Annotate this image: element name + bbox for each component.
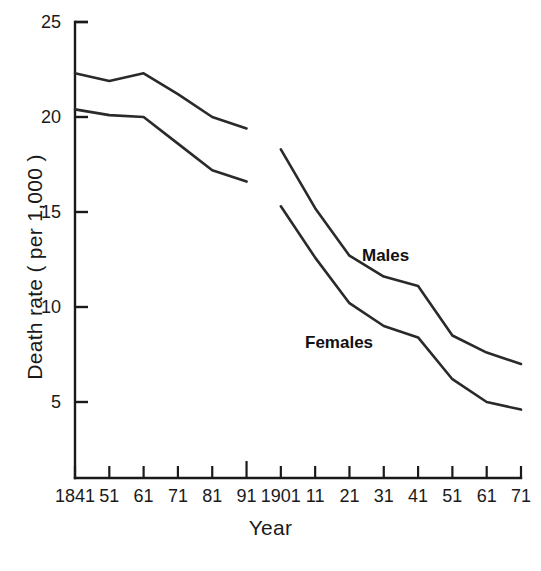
- axis-lines: [75, 22, 521, 478]
- chart-figure: Death rate ( per 1,000 ) Year 510152025 …: [0, 0, 541, 571]
- x-tick-label: 91: [237, 486, 257, 507]
- x-axis-title: Year: [0, 516, 541, 540]
- x-tick-label: 81: [202, 486, 222, 507]
- x-tick-label: 71: [168, 486, 188, 507]
- x-tick-label: 51: [442, 486, 462, 507]
- x-tick-label: 31: [374, 486, 394, 507]
- series-line-females: [281, 206, 521, 409]
- series-line-males: [75, 73, 247, 128]
- x-tick-label: 21: [339, 486, 359, 507]
- y-tick-label: 5: [0, 392, 61, 413]
- x-tick-label: 71: [511, 486, 531, 507]
- x-tick-label: 51: [99, 486, 119, 507]
- y-tick-label: 10: [0, 297, 61, 318]
- y-tick-label: 25: [0, 12, 61, 33]
- axis-ticks: [75, 22, 521, 478]
- data-series: [75, 73, 521, 409]
- y-tick-label: 15: [0, 202, 61, 223]
- x-tick-label: 61: [477, 486, 497, 507]
- caption-remnant: [0, 549, 541, 571]
- x-tick-label: 41: [408, 486, 428, 507]
- x-tick-label: 1901: [261, 486, 301, 507]
- series-annotation-females: Females: [305, 333, 373, 353]
- series-annotation-males: Males: [362, 246, 409, 266]
- x-tick-label: 1841: [55, 486, 95, 507]
- x-tick-label: 61: [134, 486, 154, 507]
- x-tick-label: 11: [306, 486, 325, 507]
- y-tick-label: 20: [0, 107, 61, 128]
